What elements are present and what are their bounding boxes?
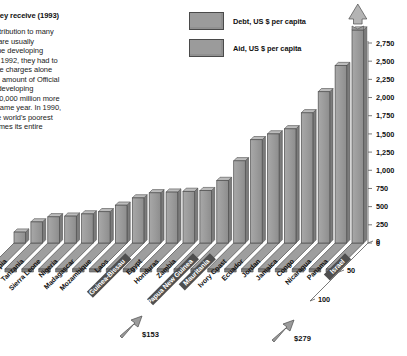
y-axis-tick-label: 1,000: [376, 166, 394, 175]
value-annotations-group: $153$279: [120, 316, 311, 343]
bar-chart: 02505007501,0001,2501,5001,7502,0002,250…: [0, 0, 407, 356]
depth-axis-tick-label: 0: [376, 237, 380, 246]
chart-canvas: 02505007501,0001,2501,5001,7502,0002,250…: [0, 0, 407, 356]
y-axis-tick-label: 1,750: [376, 111, 394, 120]
y-axis-tick-label: 500: [376, 202, 388, 211]
debt-bars-group: [14, 4, 367, 243]
debt-bar: [200, 187, 215, 243]
y-axis-tick-label: 2,500: [376, 57, 394, 66]
infographic-page: nd the aid they receive (1993) ke a vita…: [0, 0, 407, 356]
debt-bar: [234, 158, 249, 243]
debt-bar: [99, 209, 114, 243]
aid-annotation-high: $279: [272, 320, 311, 343]
debt-bar: [14, 229, 29, 243]
depth-axis-tick-label: 100: [318, 295, 330, 304]
debt-bar: [65, 213, 80, 243]
y-axis-tick-label: 2,750: [376, 39, 394, 48]
debt-bar: [115, 202, 130, 243]
y-axis-tick-label: 1,250: [376, 148, 394, 157]
debt-bar: [166, 189, 181, 243]
y-axis-tick-label: 750: [376, 184, 388, 193]
debt-bar: [349, 4, 367, 243]
debt-bar: [82, 211, 97, 243]
aid-annotation-low: $153: [120, 316, 159, 339]
debt-bar: [48, 214, 63, 243]
debt-bar: [251, 137, 266, 243]
depth-axis-tick-label: 50: [347, 266, 355, 275]
aid-annotation-low-label: $153: [142, 330, 159, 339]
debt-bar: [31, 219, 46, 243]
y-axis-tick-label: 250: [376, 220, 388, 229]
y-axis-tick-label: 1,500: [376, 130, 394, 139]
y-axis-tick-label: 2,000: [376, 93, 394, 102]
debt-bar: [268, 131, 283, 243]
aid-annotation-high-label: $279: [294, 334, 311, 343]
debt-bar: [335, 62, 350, 243]
debt-bar: [149, 190, 164, 243]
debt-bar: [132, 195, 147, 243]
debt-bar: [318, 89, 333, 243]
debt-bar: [284, 126, 299, 243]
category-labels-group: EthiopiaTanzaniaSierra LeoneNigeriaMadag…: [0, 253, 351, 307]
y-axis-tick-label: 2,250: [376, 75, 394, 84]
debt-bar: [217, 177, 232, 243]
y-axis: 02505007501,0001,2501,5001,7502,0002,250…: [368, 39, 394, 248]
debt-bar: [301, 110, 316, 243]
debt-bar: [183, 188, 198, 243]
